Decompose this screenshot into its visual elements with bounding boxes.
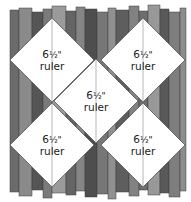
quilt-diagram: 6½" ruler 6½" ruler 6½" ruler 6½" ruler …: [0, 0, 191, 202]
ruler-label-top-left: 6½" ruler: [40, 49, 65, 72]
ruler-fraction: ½": [140, 135, 153, 145]
ruler-label-top-right: 6½" ruler: [131, 49, 156, 72]
ruler-label-bottom-left: 6½" ruler: [40, 134, 65, 157]
ruler-word: ruler: [131, 60, 156, 72]
ruler-label-center: 6½" ruler: [84, 90, 109, 113]
ruler-word: ruler: [131, 145, 156, 157]
fabric-strip: [180, 8, 186, 191]
fabric-strip: [19, 8, 32, 196]
ruler-fraction: ½": [93, 91, 106, 101]
ruler-fraction: ½": [49, 135, 62, 145]
ruler-word: ruler: [84, 101, 109, 113]
ruler-word: ruler: [40, 145, 65, 157]
fabric-strip: [169, 12, 180, 197]
ruler-fraction: ½": [49, 50, 62, 60]
ruler-fraction: ½": [140, 50, 153, 60]
ruler-label-bottom-right: 6½" ruler: [131, 134, 156, 157]
fabric-strip: [10, 10, 19, 192]
ruler-word: ruler: [40, 60, 65, 72]
